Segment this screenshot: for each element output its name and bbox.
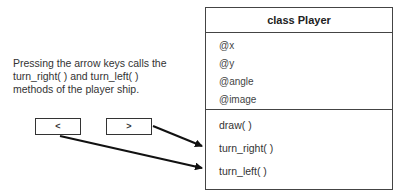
arrow-left-to-turn-left: [60, 136, 202, 168]
arrows-layer: [0, 0, 408, 193]
arrow-right-to-turn-right: [153, 126, 202, 146]
